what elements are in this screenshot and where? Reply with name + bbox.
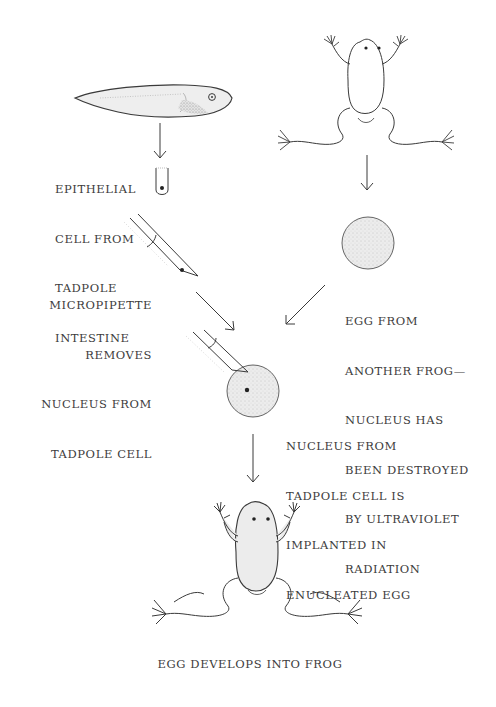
label-line: NUCLEUS FROM xyxy=(286,438,411,455)
label-line: REMOVES xyxy=(20,347,152,364)
label-line: EGG DEVELOPS INTO FROG xyxy=(100,656,400,673)
implanted-egg-label: NUCLEUS FROM TADPOLE CELL IS IMPLANTED I… xyxy=(286,405,411,620)
egg-with-nucleus-icon xyxy=(186,330,279,417)
arrow-pipette-to-egg xyxy=(196,292,234,330)
arrow-tadpole-to-cell xyxy=(154,123,166,158)
cell-icon xyxy=(156,168,168,195)
label-line: EPITHELIAL xyxy=(55,181,136,198)
label-line: TADPOLE CELL IS xyxy=(286,488,411,505)
label-line: TADPOLE CELL xyxy=(20,446,152,463)
frog-icon xyxy=(278,35,454,150)
result-frog-label: EGG DEVELOPS INTO FROG WITH SAME CHARACT… xyxy=(100,623,400,707)
label-line: MICROPIPETTE xyxy=(20,297,152,314)
micropipette-label: MICROPIPETTE REMOVES NUCLEUS FROM TADPOL… xyxy=(20,264,152,479)
tadpole-icon xyxy=(75,85,232,117)
label-line: NUCLEUS FROM xyxy=(20,396,152,413)
label-line: ENUCLEATED EGG xyxy=(286,587,411,604)
label-line: ANOTHER FROG— xyxy=(345,363,469,380)
label-line: EGG FROM xyxy=(345,313,469,330)
label-line: IMPLANTED IN xyxy=(286,537,411,554)
diagram-canvas: EPITHELIAL CELL FROM TADPOLE INTESTINE M… xyxy=(0,0,496,707)
egg-icon xyxy=(342,217,394,269)
arrow-frog-to-egg xyxy=(361,155,373,190)
arrow-egg-to-frog xyxy=(247,434,259,482)
arrow-egg-to-implanted xyxy=(286,285,325,324)
label-line: CELL FROM xyxy=(55,231,136,248)
